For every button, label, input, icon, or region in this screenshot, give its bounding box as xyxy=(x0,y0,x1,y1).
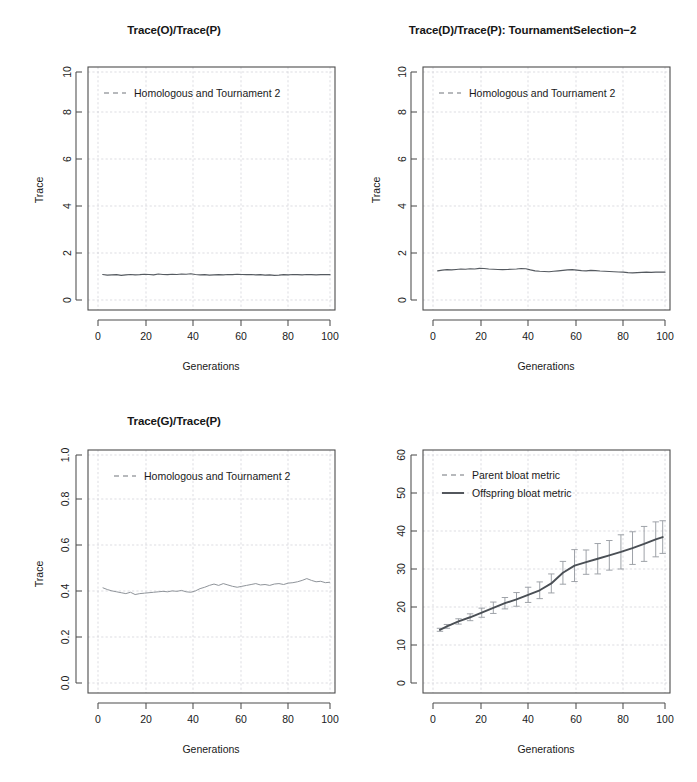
y-axis-bottom-right: 0 10 20 30 40 50 60 xyxy=(395,449,417,686)
x-tick-label: 20 xyxy=(140,713,152,725)
gridlines-top-left xyxy=(88,67,335,310)
x-tick-label: 60 xyxy=(570,330,582,342)
multi-panel-figure: Trace(O)/Trace(P) xyxy=(0,0,697,782)
y-tick-label: 1.0 xyxy=(59,448,71,463)
y-tick-label: 8 xyxy=(396,109,408,115)
y-tick-label: 4 xyxy=(396,203,408,209)
plot-top-right: 0 2 4 6 8 10 Trace 0 20 40 60 80 xyxy=(348,0,697,391)
x-axis-title: Generations xyxy=(182,360,239,372)
y-tick-label: 0.8 xyxy=(59,492,71,507)
legend-label: Parent bloat metric xyxy=(472,469,560,481)
y-tick-label: 0 xyxy=(395,680,407,686)
y-tick-label: 10 xyxy=(396,66,408,78)
y-tick-label: 0.6 xyxy=(59,538,71,553)
y-tick-label: 6 xyxy=(396,156,408,162)
y-tick-label: 60 xyxy=(395,449,407,461)
x-tick-label: 80 xyxy=(282,713,294,725)
y-tick-label: 4 xyxy=(61,203,73,209)
legend-label: Homologous and Tournament 2 xyxy=(134,87,280,99)
x-tick-label: 40 xyxy=(522,713,534,725)
y-tick-label: 2 xyxy=(396,250,408,256)
y-tick-label: 0 xyxy=(61,297,73,303)
y-tick-label: 10 xyxy=(61,66,73,78)
y-tick-label: 40 xyxy=(395,525,407,537)
series-line-homologous xyxy=(103,579,330,595)
legend-label: Offspring bloat metric xyxy=(472,487,572,499)
y-tick-label: 0.2 xyxy=(59,630,71,645)
x-tick-label: 0 xyxy=(95,713,101,725)
y-tick-label: 0.0 xyxy=(59,676,71,691)
panel-bloat-metric: 0 10 20 30 40 50 60 0 20 40 60 80 xyxy=(348,391,697,782)
series-group-bottom-left xyxy=(103,579,330,595)
y-tick-label: 10 xyxy=(395,639,407,651)
panel-trace-d-over-trace-p: Trace(D)/Trace(P): TournamentSelection−2 xyxy=(348,0,697,391)
y-tick-label: 0.4 xyxy=(59,584,71,599)
legend-bottom-left: Homologous and Tournament 2 xyxy=(114,470,290,482)
y-axis-title: Trace xyxy=(33,561,45,588)
x-tick-label: 0 xyxy=(430,330,436,342)
x-axis-title: Generations xyxy=(517,360,574,372)
x-tick-label: 100 xyxy=(321,330,339,342)
y-tick-label: 8 xyxy=(61,109,73,115)
x-tick-label: 40 xyxy=(522,330,534,342)
series-line-offspring-bloat xyxy=(440,537,663,630)
series-group-top-left xyxy=(103,274,330,276)
x-axis-top-left: 0 20 40 60 80 100 Generations xyxy=(95,320,339,372)
panel-trace-o-over-trace-p: Trace(O)/Trace(P) xyxy=(0,0,348,391)
x-tick-label: 100 xyxy=(321,713,339,725)
y-tick-label: 30 xyxy=(395,563,407,575)
x-tick-label: 100 xyxy=(656,330,674,342)
x-tick-label: 20 xyxy=(140,330,152,342)
x-axis-bottom-left: 0 20 40 60 80 100 Generations xyxy=(95,703,339,755)
y-tick-label: 0 xyxy=(396,297,408,303)
x-tick-label: 20 xyxy=(475,330,487,342)
series-line-homologous xyxy=(438,268,665,273)
x-axis-title: Generations xyxy=(517,743,574,755)
x-axis-bottom-right: 0 20 40 60 80 100 Generations xyxy=(430,703,674,755)
panel-trace-g-over-trace-p: Trace(G)/Trace(P) xyxy=(0,391,348,782)
y-tick-label: 50 xyxy=(395,487,407,499)
x-tick-label: 80 xyxy=(617,330,629,342)
plot-frame-top-left xyxy=(88,67,335,310)
y-axis-top-left: 0 2 4 6 8 10 Trace xyxy=(33,66,82,303)
legend-label: Homologous and Tournament 2 xyxy=(469,87,615,99)
series-group-top-right xyxy=(438,268,665,273)
plot-frame-top-right xyxy=(423,67,670,310)
errorbars-bottom-right xyxy=(437,521,666,632)
y-axis-title: Trace xyxy=(370,177,382,204)
x-axis-top-right: 0 20 40 60 80 100 Generations xyxy=(430,320,674,372)
y-axis-title: Trace xyxy=(33,177,45,204)
gridlines-top-right xyxy=(423,67,670,310)
y-tick-label: 20 xyxy=(395,601,407,613)
legend-label: Homologous and Tournament 2 xyxy=(144,470,290,482)
x-tick-label: 60 xyxy=(235,330,247,342)
x-tick-label: 20 xyxy=(475,713,487,725)
x-tick-label: 60 xyxy=(570,713,582,725)
x-axis-title: Generations xyxy=(182,743,239,755)
y-tick-label: 2 xyxy=(61,250,73,256)
plot-frame-bottom-left xyxy=(88,450,335,693)
x-tick-label: 0 xyxy=(430,713,436,725)
legend-bottom-right: Parent bloat metric Offspring bloat metr… xyxy=(442,469,572,499)
x-tick-label: 60 xyxy=(235,713,247,725)
series-line-homologous xyxy=(103,274,330,276)
x-tick-label: 40 xyxy=(187,330,199,342)
x-tick-label: 80 xyxy=(617,713,629,725)
plot-bottom-left: 0.0 0.2 0.4 0.6 0.8 1.0 Trace 0 20 40 60 xyxy=(0,391,348,782)
legend-top-left: Homologous and Tournament 2 xyxy=(104,87,280,99)
plot-top-left: 0 2 4 6 8 10 Trace 0 20 40 60 xyxy=(0,0,348,391)
x-tick-label: 80 xyxy=(282,330,294,342)
y-axis-bottom-left: 0.0 0.2 0.4 0.6 0.8 1.0 Trace xyxy=(33,448,82,691)
plot-bottom-right: 0 10 20 30 40 50 60 0 20 40 60 80 xyxy=(348,391,697,782)
x-tick-label: 100 xyxy=(656,713,674,725)
y-tick-label: 6 xyxy=(61,156,73,162)
gridlines-bottom-left xyxy=(88,450,335,693)
series-group-bottom-right xyxy=(440,537,663,630)
x-tick-label: 0 xyxy=(95,330,101,342)
legend-top-right: Homologous and Tournament 2 xyxy=(439,87,615,99)
x-tick-label: 40 xyxy=(187,713,199,725)
y-axis-top-right: 0 2 4 6 8 10 Trace xyxy=(370,66,417,303)
